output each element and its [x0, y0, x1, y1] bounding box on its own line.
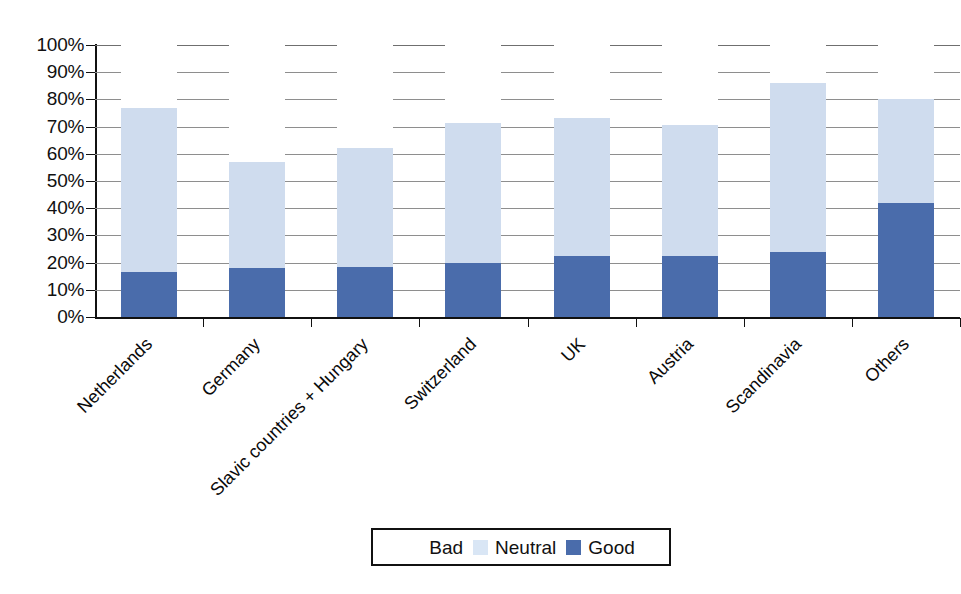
y-axis-labels: 100%90%80%70%60%50%40%30%20%10%0% — [0, 0, 84, 594]
bar-segment-good — [554, 256, 610, 317]
chart-legend: BadNeutralGood — [371, 528, 671, 566]
legend-swatch-neutral-icon — [473, 540, 488, 555]
gridline-70 — [95, 127, 960, 128]
legend-item-good: Good — [566, 538, 634, 557]
y-tick-0 — [86, 317, 95, 318]
bar-segment-bad — [554, 45, 610, 118]
legend-swatch-good-icon — [566, 540, 581, 555]
bar-netherlands — [121, 45, 177, 317]
bar-segment-bad — [445, 45, 501, 123]
y-tick-label-10: 10% — [6, 280, 84, 299]
x-tick-1 — [311, 318, 312, 327]
y-tick-80 — [86, 99, 95, 100]
bar-segment-neutral — [445, 123, 501, 263]
x-tick-3 — [528, 318, 529, 327]
y-tick-label-40: 40% — [6, 198, 84, 217]
legend-label-neutral: Neutral — [495, 538, 556, 557]
y-tick-100 — [86, 45, 95, 46]
y-tick-50 — [86, 181, 95, 182]
gridline-30 — [95, 235, 960, 236]
bar-segment-neutral — [554, 118, 610, 255]
gridline-40 — [95, 208, 960, 209]
bar-segment-bad — [770, 45, 826, 83]
x-tick-6 — [852, 318, 853, 327]
gridline-100 — [95, 45, 960, 46]
bar-germany — [229, 45, 285, 317]
x-tick-0 — [203, 318, 204, 327]
bar-scandinavia — [770, 45, 826, 317]
y-tick-90 — [86, 72, 95, 73]
y-tick-label-0: 0% — [6, 307, 84, 326]
gridline-60 — [95, 154, 960, 155]
y-tick-label-30: 30% — [6, 225, 84, 244]
bar-austria — [662, 45, 718, 317]
bar-segment-neutral — [229, 162, 285, 268]
x-tick-4 — [636, 318, 637, 327]
bar-segment-bad — [229, 45, 285, 162]
bar-segment-bad — [337, 45, 393, 148]
y-tick-label-80: 80% — [6, 89, 84, 108]
bar-segment-good — [878, 203, 934, 317]
plot-area — [95, 45, 960, 317]
y-tick-20 — [86, 263, 95, 264]
gridline-10 — [95, 290, 960, 291]
bar-others — [878, 45, 934, 317]
bar-segment-neutral — [662, 125, 718, 256]
bar-segment-good — [121, 272, 177, 317]
bar-switzerland — [445, 45, 501, 317]
bar-uk — [554, 45, 610, 317]
legend-label-bad: Bad — [429, 538, 463, 557]
y-tick-label-50: 50% — [6, 171, 84, 190]
y-tick-label-20: 20% — [6, 253, 84, 272]
y-tick-10 — [86, 290, 95, 291]
bar-slavic-countries-hungary — [337, 45, 393, 317]
gridline-90 — [95, 72, 960, 73]
y-tick-label-90: 90% — [6, 62, 84, 81]
legend-label-good: Good — [588, 538, 634, 557]
y-tick-label-100: 100% — [6, 35, 84, 54]
bar-segment-good — [445, 263, 501, 317]
bar-segment-good — [662, 256, 718, 317]
gridline-50 — [95, 181, 960, 182]
bar-segment-neutral — [121, 108, 177, 273]
legend-swatch-bad-icon — [407, 540, 422, 555]
legend-item-bad: Bad — [407, 538, 463, 557]
gridline-20 — [95, 263, 960, 264]
bar-segment-neutral — [337, 148, 393, 266]
x-tick-5 — [744, 318, 745, 327]
bar-segment-neutral — [770, 83, 826, 252]
bar-segment-bad — [878, 45, 934, 99]
y-tick-label-70: 70% — [6, 117, 84, 136]
x-tick-2 — [419, 318, 420, 327]
bar-segment-neutral — [878, 99, 934, 202]
bar-segment-good — [229, 268, 285, 317]
gridline-80 — [95, 99, 960, 100]
y-tick-40 — [86, 208, 95, 209]
bar-segment-bad — [662, 45, 718, 125]
bar-segment-bad — [121, 45, 177, 108]
y-tick-label-60: 60% — [6, 144, 84, 163]
bar-segment-good — [770, 252, 826, 317]
bar-segment-good — [337, 267, 393, 317]
y-tick-70 — [86, 127, 95, 128]
y-tick-60 — [86, 154, 95, 155]
y-tick-30 — [86, 235, 95, 236]
legend-item-neutral: Neutral — [473, 538, 556, 557]
